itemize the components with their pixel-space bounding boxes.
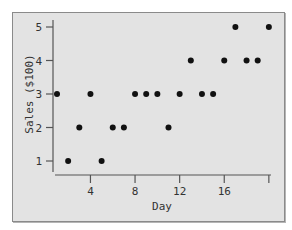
data-point: [255, 58, 261, 64]
data-point: [76, 125, 82, 131]
data-point: [99, 158, 105, 164]
x-tick-label: 16: [218, 185, 231, 198]
y-tick-label: 3: [35, 88, 42, 101]
y-tick-label: 4: [35, 55, 42, 68]
data-point: [121, 125, 127, 131]
x-axis-title: Day: [152, 200, 172, 213]
data-point: [210, 91, 216, 97]
x-tick-label: 4: [87, 185, 94, 198]
data-point: [177, 91, 183, 97]
data-point: [221, 58, 227, 64]
data-point: [143, 91, 149, 97]
axes: 12345481216: [35, 20, 271, 198]
data-point: [65, 158, 71, 164]
y-axis-title: Sales ($100): [23, 54, 36, 133]
x-tick-label: 12: [173, 185, 186, 198]
data-point: [87, 91, 93, 97]
data-point: [54, 91, 60, 97]
y-tick-label: 2: [35, 122, 42, 135]
data-point: [244, 58, 250, 64]
data-point: [110, 125, 116, 131]
data-point: [199, 91, 205, 97]
scatter-chart: 12345481216 Day Sales ($100): [0, 0, 292, 230]
data-point: [132, 91, 138, 97]
data-point: [266, 24, 272, 30]
data-point: [232, 24, 238, 30]
data-points: [54, 24, 272, 164]
data-point: [154, 91, 160, 97]
data-point: [166, 125, 172, 131]
y-tick-label: 5: [35, 21, 42, 34]
x-tick-label: 8: [132, 185, 139, 198]
data-point: [188, 58, 194, 64]
y-tick-label: 1: [35, 155, 42, 168]
